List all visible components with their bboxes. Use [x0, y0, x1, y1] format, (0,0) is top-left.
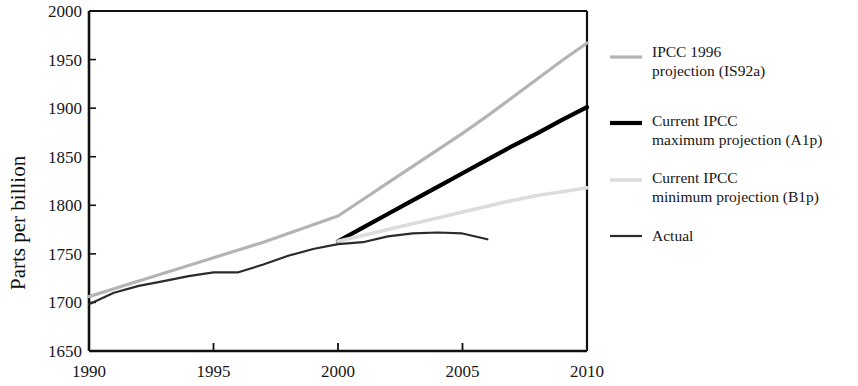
legend-label-1-line2: maximum projection (A1p) — [652, 131, 822, 149]
chart-legend: IPCC 1996projection (IS92a)Current IPCCm… — [610, 43, 822, 244]
series-line-3 — [89, 232, 487, 304]
y-tick-label: 2000 — [48, 2, 82, 21]
y-axis-title: Parts per billion — [6, 155, 30, 290]
x-tick-label: 2005 — [446, 362, 480, 381]
legend-label-0: IPCC 1996 — [652, 43, 722, 60]
y-tick-label-group: 16501700175018001850190019502000 — [48, 2, 82, 361]
y-tick-label: 1900 — [48, 99, 82, 118]
y-tick-label: 1950 — [48, 51, 82, 70]
legend-label-2: Current IPCC — [652, 169, 738, 186]
methane-concentration-chart: Parts per billion 1650170017501800185019… — [0, 0, 858, 386]
chart-svg: Parts per billion 1650170017501800185019… — [0, 0, 858, 386]
legend-label-3: Actual — [652, 227, 693, 244]
series-line-1 — [338, 107, 587, 241]
data-series-group — [89, 43, 587, 304]
x-tick-label: 2010 — [570, 362, 604, 381]
x-tick-label: 1995 — [197, 362, 231, 381]
y-tick-label: 1750 — [48, 245, 82, 264]
x-tick-label: 2000 — [321, 362, 355, 381]
y-tick-label: 1700 — [48, 293, 82, 312]
y-axis-title-group: Parts per billion — [6, 155, 30, 290]
series-line-0 — [89, 43, 587, 297]
y-tick-label: 1650 — [48, 342, 82, 361]
legend-label-2-line2: minimum projection (B1p) — [652, 188, 819, 206]
plot-frame — [89, 11, 587, 351]
legend-label-0-line2: projection (IS92a) — [652, 62, 765, 80]
x-tick-label-group: 19901995200020052010 — [72, 362, 604, 381]
x-tick-label: 1990 — [72, 362, 106, 381]
legend-label-1: Current IPCC — [652, 112, 738, 129]
y-tick-label: 1850 — [48, 148, 82, 167]
y-tick-label: 1800 — [48, 196, 82, 215]
